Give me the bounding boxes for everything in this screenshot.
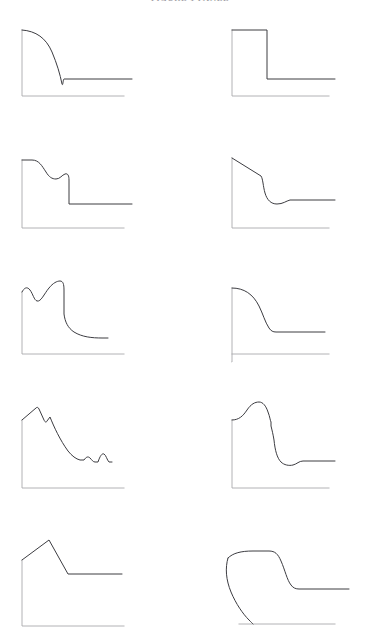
panel-10-curve [228, 551, 349, 589]
panel-10-curved-edge-flat-top-s-drop [213, 528, 380, 636]
panel-9-curve [22, 540, 122, 574]
panel-2-curve [232, 30, 335, 79]
panel-8-curve [232, 402, 335, 465]
panel-4-linear-decline-undershoot-recover [213, 146, 380, 242]
panel-1-convex-decay-to-plateau [8, 22, 198, 114]
panel-2-step-function-drop [213, 22, 380, 114]
panel-7-curve [22, 407, 112, 462]
panel-5-double-peak-then-long-tail [8, 270, 198, 366]
panel-4-curve [232, 158, 335, 204]
panel-3-axis [22, 160, 124, 228]
panel-3-curve [22, 160, 132, 204]
panel-9-triangular-peak-then-plateau [8, 528, 198, 636]
panel-5-curve [22, 281, 108, 338]
panel-6-baseline-holder [213, 270, 380, 366]
panel-4-axis [232, 158, 329, 228]
panel-2-axis [232, 30, 329, 96]
panel-grid [0, 0, 380, 641]
figure-root: FIGURE 1 PANEL [0, 0, 380, 641]
panel-7-axis [22, 420, 124, 488]
panel-8-axis [232, 420, 329, 488]
panel-1-curve [22, 30, 132, 85]
panel-1-axis [22, 30, 124, 96]
panel-7-peak-then-decay-with-two-bumps [8, 396, 198, 498]
panel-10-left-edge [226, 558, 253, 624]
panel-3-shoulder-bump-then-drop [8, 146, 198, 242]
panel-9-axis [22, 560, 124, 626]
panel-8-hump-shoulder-drop-undershoot [213, 396, 380, 498]
